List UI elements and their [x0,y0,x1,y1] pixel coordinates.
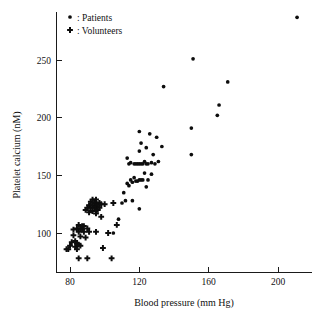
data-point-patient [137,149,141,153]
x-axis-tick-label: 160 [202,277,217,287]
data-point-patient [162,85,166,89]
data-point-patient [141,178,145,182]
data-point-patient [217,103,221,107]
y-axis-tick-label: 200 [37,113,52,123]
data-point-patient [189,126,193,130]
data-point-patient [117,217,121,221]
data-point-patient [143,171,147,175]
data-point-patient [137,207,141,211]
data-point-patient [129,161,133,165]
data-point-patient [131,180,135,184]
scatter-plot-figure: 80120160200100150200250 : Patients: Volu… [0,0,319,320]
data-point-patient [151,153,155,157]
data-point-patient [144,146,148,150]
data-point-patient [153,162,157,166]
data-point-patient [295,15,299,19]
data-point-patient [120,201,124,205]
plot-canvas: 80120160200100150200250 : Patients: Volu… [0,0,319,320]
data-point-patient [127,184,131,188]
y-axis-title: Platelet calcium (nM) [11,111,23,198]
data-point-patient [111,231,115,235]
x-axis-title: Blood pressure (mm Hg) [134,297,234,309]
legend-marker-patient [68,15,72,19]
legend-label: : Patients [77,13,112,23]
x-axis-tick-label: 80 [65,277,75,287]
data-point-patient [191,57,195,61]
data-point-patient [124,199,128,203]
data-point-patient [157,160,161,164]
data-point-patient [226,80,230,84]
data-point-patient [122,191,126,195]
data-point-patient [137,130,141,134]
data-point-patient [139,141,143,145]
data-point-patient [146,162,150,166]
y-axis-tick-label: 150 [37,171,52,181]
data-point-patient [148,132,152,136]
data-point-patient [160,145,164,149]
data-point-patient [144,185,148,189]
data-point-patient [125,156,129,160]
data-point-patient [215,114,219,118]
x-axis-tick-label: 120 [132,277,147,287]
y-axis-tick-label: 250 [37,56,52,66]
data-point-patient [155,135,159,139]
data-point-patient [189,153,193,157]
legend-label: : Volunteers [77,26,123,36]
y-axis-tick-label: 100 [37,229,52,239]
x-axis-tick-label: 200 [271,277,286,287]
data-point-patient [150,172,154,176]
data-point-patient [150,161,154,165]
data-point-patient [132,176,136,180]
data-point-patient [131,199,135,203]
data-point-patient [146,178,150,182]
